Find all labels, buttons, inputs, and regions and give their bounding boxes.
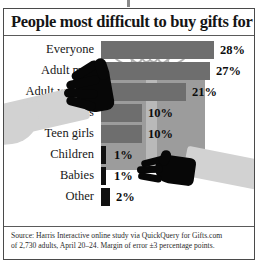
infographic-chart: People most difficult to buy gifts for E… [0, 0, 258, 263]
bar-everyone [101, 41, 214, 59]
bar-label-other: Other [4, 189, 94, 204]
plot-area: Everyone 28% Adult men 27% Adult women 2… [4, 36, 254, 228]
page-artifact-mark [127, 0, 130, 7]
page-title: People most difficult to buy gifts for [11, 12, 253, 32]
bar-adult-men [101, 62, 210, 80]
bar-value-adult-men: 27% [216, 64, 241, 79]
bar-babies [101, 167, 106, 185]
bar-value-adult-women: 21% [192, 85, 217, 100]
chart-frame: People most difficult to buy gifts for E… [3, 8, 255, 260]
bar-value-children: 1% [114, 148, 133, 163]
bar-value-other: 2% [116, 190, 135, 205]
bar-label-everyone: Everyone [4, 42, 94, 57]
bars-layer: Everyone 28% Adult men 27% Adult women 2… [4, 36, 254, 228]
bar-value-teen-girls: 10% [148, 127, 173, 142]
bar-value-babies: 1% [114, 169, 133, 184]
bar-value-teen-boys: 10% [148, 106, 173, 121]
bar-other [101, 188, 110, 206]
bar-row-everyone: Everyone 28% [4, 40, 254, 61]
bar-value-everyone: 28% [220, 43, 245, 58]
bar-children [101, 146, 106, 164]
bar-label-children: Children [4, 147, 94, 162]
source-line-2: of 2,730 adults, April 20–24. Margin of … [11, 241, 247, 251]
bar-label-babies: Babies [4, 168, 94, 183]
bar-row-adult-men: Adult men 27% [4, 61, 254, 82]
bar-row-other: Other 2% [4, 187, 254, 208]
source-line-1: Source: Harris Interactive online study … [11, 231, 247, 241]
bar-teen-girls [101, 125, 142, 143]
title-bar: People most difficult to buy gifts for [4, 9, 254, 36]
source-footer: Source: Harris Interactive online study … [4, 226, 254, 259]
